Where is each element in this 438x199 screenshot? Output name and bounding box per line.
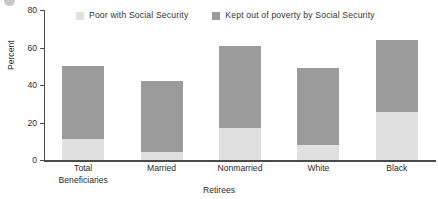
y-tick-label: 0	[32, 156, 37, 165]
corner-artifact-icon	[4, 0, 15, 6]
x-category-label: TotalBeneficiaries	[44, 163, 122, 186]
bar-group[interactable]	[141, 81, 183, 160]
y-tick-label: 20	[27, 119, 37, 128]
bar-group[interactable]	[219, 46, 261, 160]
bar-segment-kept-out-of-poverty[interactable]	[62, 66, 104, 139]
bar-group[interactable]	[297, 68, 339, 160]
bar-group[interactable]	[376, 40, 418, 160]
x-axis-title: Retirees	[0, 185, 438, 195]
y-axis-title: Percent	[6, 40, 16, 70]
x-category-label: Black	[358, 163, 436, 175]
bar-segment-poor-with-ss[interactable]	[376, 112, 418, 160]
chart-figure: Poor with Social Security Kept out of po…	[0, 0, 438, 199]
y-tick-label: 80	[27, 6, 37, 15]
y-tick-label: 40	[27, 81, 37, 90]
bar-series-container	[44, 10, 436, 160]
x-category-label: Nonmarried	[201, 163, 279, 175]
y-tick-mark	[40, 160, 45, 161]
x-axis-line	[44, 160, 436, 162]
bar-segment-kept-out-of-poverty[interactable]	[141, 81, 183, 151]
bar-segment-poor-with-ss[interactable]	[219, 128, 261, 160]
bar-segment-poor-with-ss[interactable]	[62, 139, 104, 160]
y-tick-label: 60	[27, 44, 37, 53]
x-category-label: White	[279, 163, 357, 175]
bar-segment-kept-out-of-poverty[interactable]	[219, 46, 261, 129]
x-category-label: Married	[122, 163, 200, 175]
plot-area: 020406080	[44, 10, 436, 160]
bar-segment-poor-with-ss[interactable]	[297, 145, 339, 160]
bar-segment-poor-with-ss[interactable]	[141, 152, 183, 160]
bar-segment-kept-out-of-poverty[interactable]	[376, 40, 418, 112]
bar-segment-kept-out-of-poverty[interactable]	[297, 68, 339, 145]
bar-group[interactable]	[62, 66, 104, 160]
